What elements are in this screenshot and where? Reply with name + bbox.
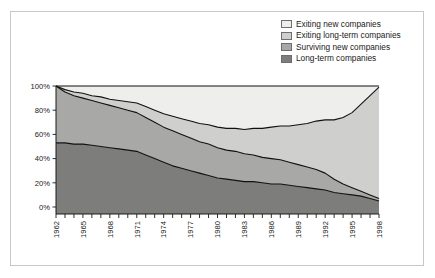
x-axis-tick-label: 1962 bbox=[52, 221, 61, 238]
x-axis-tick-label: 1983 bbox=[240, 221, 249, 238]
x-axis-tick-label: 1968 bbox=[106, 221, 115, 238]
x-axis-tick-label: 1974 bbox=[159, 221, 168, 238]
y-axis-tick-label: 60% bbox=[35, 130, 50, 139]
x-axis-tick-label: 1980 bbox=[213, 221, 222, 238]
x-axis-tick-label: 1992 bbox=[321, 221, 330, 238]
x-axis-tick-label: 1995 bbox=[348, 221, 357, 238]
x-axis-tick-label: 1986 bbox=[267, 221, 276, 238]
x-axis-tick-label: 1989 bbox=[294, 221, 303, 238]
x-axis-tick-label: 1977 bbox=[186, 221, 195, 238]
x-axis-tick-label: 1965 bbox=[79, 221, 88, 238]
y-axis-tick-label: 0% bbox=[39, 203, 50, 212]
chart-plot-area: 0%20%40%60%80%100%1962196519681971197419… bbox=[0, 0, 435, 278]
x-axis-tick-label: 1998 bbox=[375, 221, 384, 238]
x-axis-tick-label: 1971 bbox=[133, 221, 142, 238]
stacked-area-chart: 0%20%40%60%80%100%1962196519681971197419… bbox=[0, 0, 435, 278]
y-axis-tick-label: 40% bbox=[35, 154, 50, 163]
y-axis-tick-label: 100% bbox=[31, 82, 51, 91]
y-axis-tick-label: 20% bbox=[35, 179, 50, 188]
y-axis-tick-label: 80% bbox=[35, 106, 50, 115]
